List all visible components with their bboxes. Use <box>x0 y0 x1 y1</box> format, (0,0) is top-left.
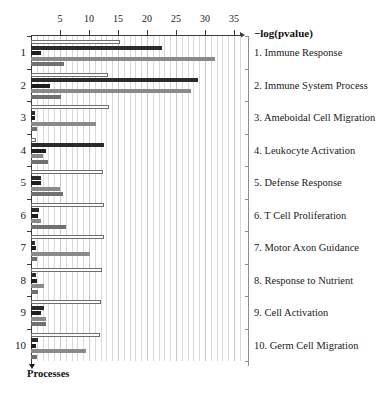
gridline <box>66 36 67 361</box>
bar <box>31 306 44 310</box>
group-number-label: 7 <box>4 241 26 253</box>
group-number-label: 9 <box>4 306 26 318</box>
process-label: 1. Immune Response <box>254 47 342 58</box>
gridline <box>159 36 160 361</box>
y-axis-group-tick <box>27 199 32 200</box>
bar <box>31 57 215 61</box>
bar <box>31 176 41 180</box>
gridline <box>89 36 90 361</box>
bar <box>31 105 109 109</box>
bar <box>31 170 103 174</box>
group-number-label: 2 <box>4 79 26 91</box>
bar <box>31 78 198 82</box>
gridline <box>199 36 200 361</box>
process-label: 5. Defense Response <box>254 177 342 188</box>
legend-axis-tick <box>245 36 249 37</box>
bar <box>31 73 108 77</box>
process-label: 4. Leukocyte Activation <box>254 144 355 155</box>
process-label: 7. Motor Axon Guidance <box>254 242 359 253</box>
bar <box>31 257 37 261</box>
gridline <box>95 36 96 361</box>
bar <box>31 273 36 277</box>
x-axis-tick-label: 20 <box>142 13 152 24</box>
bar <box>31 333 100 337</box>
bar <box>31 62 64 66</box>
gridline <box>234 36 235 361</box>
x-axis-tick <box>176 30 177 35</box>
grouped-bar-chart: 5101520253035 12345678910 −log(pvalue) 1… <box>0 0 387 396</box>
bar <box>31 300 101 304</box>
bar <box>31 89 191 93</box>
bar <box>31 192 63 196</box>
gridline <box>240 36 241 361</box>
gridline <box>193 36 194 361</box>
process-label: 3. Ameboidal Cell Migration <box>254 112 375 123</box>
gridline <box>124 36 125 361</box>
y-axis-group-tick <box>27 329 32 330</box>
bar <box>31 138 36 142</box>
bar <box>31 252 90 256</box>
legend-axis-tick <box>245 264 249 265</box>
y-axis-group-tick <box>27 36 32 37</box>
plot-area <box>31 36 238 361</box>
gridline <box>153 36 154 361</box>
bar <box>31 322 46 326</box>
x-axis-tick-label: 30 <box>200 13 210 24</box>
y-axis-group-tick <box>27 231 32 232</box>
bar <box>31 149 46 153</box>
gridline <box>228 36 229 361</box>
bar <box>31 225 66 229</box>
bar <box>31 241 35 245</box>
x-axis-tick-label: 15 <box>113 13 123 24</box>
x-axis-tick <box>147 30 148 35</box>
gridline <box>106 36 107 361</box>
bar <box>31 284 44 288</box>
bar <box>31 84 50 88</box>
legend-axis-tick <box>245 329 249 330</box>
group-number-label: 8 <box>4 274 26 286</box>
gridline <box>101 36 102 361</box>
x-axis-tick <box>205 30 206 35</box>
gridline <box>182 36 183 361</box>
gridline <box>217 36 218 361</box>
gridline <box>170 36 171 361</box>
bar <box>31 268 102 272</box>
bar <box>31 219 41 223</box>
x-axis-tick <box>234 30 235 35</box>
x-axis-tick-label: 25 <box>171 13 181 24</box>
y-axis-group-tick <box>27 296 32 297</box>
legend-axis-tick <box>245 101 249 102</box>
x-axis-tick-label: 10 <box>84 13 94 24</box>
bar <box>31 290 38 294</box>
gridline <box>83 36 84 361</box>
gridline <box>118 36 119 361</box>
legend-axis-tick <box>245 69 249 70</box>
bar <box>31 143 104 147</box>
bar <box>31 355 37 359</box>
bar <box>31 338 38 342</box>
group-number-label: 1 <box>4 46 26 58</box>
bar <box>31 181 41 185</box>
y-axis-group-tick <box>27 166 32 167</box>
group-number-label: 6 <box>4 209 26 221</box>
bar <box>31 311 41 315</box>
process-label: 8. Response to Nutrient <box>254 274 353 285</box>
x-axis-tick <box>118 30 119 35</box>
y-axis-group-tick <box>27 264 32 265</box>
group-number-label: 10 <box>4 339 26 351</box>
bar <box>31 160 48 164</box>
legend-axis-tick <box>245 296 249 297</box>
gridline <box>130 36 131 361</box>
bar <box>31 116 35 120</box>
bar <box>31 51 41 55</box>
bar <box>31 203 104 207</box>
legend-axis-line <box>248 36 249 366</box>
legend-axis-tick <box>245 231 249 232</box>
legend-axis-tick <box>245 199 249 200</box>
y-axis-title: Processes <box>27 368 69 379</box>
process-label: 9. Cell Activation <box>254 307 328 318</box>
gridline <box>205 36 206 361</box>
gridline <box>222 36 223 361</box>
process-label: 2. Immune System Process <box>254 79 368 90</box>
group-number-label: 5 <box>4 176 26 188</box>
